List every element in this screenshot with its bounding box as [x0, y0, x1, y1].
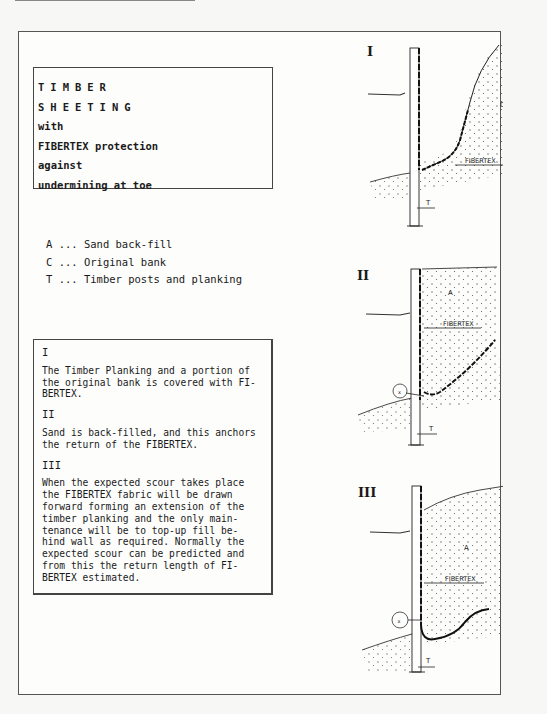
diagram-3: x FIBERTEX A T — [340, 460, 503, 690]
diagram-3-fabric-label: FIBERTEX — [445, 575, 476, 583]
diagram-3-fill-label: A — [464, 544, 469, 552]
diagram-2-timber-label: T — [428, 425, 434, 433]
title-line-2: SHEETING — [38, 98, 272, 118]
diagram-2-fabric-label: FIBERTEX — [443, 320, 474, 328]
diagram-3-timber-label: T — [425, 657, 431, 665]
diagram-2-detail-label: x — [398, 389, 401, 395]
step-3-numeral: III — [42, 460, 271, 472]
diagram-1: FIBERTEX C T — [360, 40, 503, 250]
diagram-2: x FIBERTEX A T — [340, 250, 503, 460]
diagram-1-fabric-label: FIBERTEX — [465, 157, 496, 165]
legend-item-t: T ... Timber posts and planking — [46, 271, 242, 289]
diagram-2-fill-label: A — [448, 289, 453, 297]
title-box: TIMBER SHEETING with FIBERTEX protection… — [33, 67, 273, 189]
legend-item-c: C ... Original bank — [46, 254, 242, 272]
title-line-1: TIMBER — [38, 78, 272, 98]
step-3-text: When the expected scour takes place the … — [42, 477, 271, 583]
step-1-numeral: I — [42, 347, 271, 359]
diagram-3-detail-label: x — [398, 618, 401, 624]
title-line-6: undermining at toe — [38, 176, 272, 196]
steps-box: I The Timber Planking and a portion of t… — [33, 339, 273, 595]
legend-item-a: A ... Sand back-fill — [46, 236, 242, 254]
step-2-numeral: II — [42, 409, 271, 421]
title-line-5: against — [38, 156, 272, 176]
step-2-text: Sand is back-filled, and this anchors th… — [42, 427, 271, 451]
title-line-4: FIBERTEX protection — [38, 137, 272, 157]
diagram-1-timber-label: T — [425, 199, 431, 207]
step-1-text: The Timber Planking and a portion of the… — [42, 365, 271, 400]
title-line-3: with — [38, 117, 272, 137]
page-edge-line — [15, 0, 195, 1]
legend: A ... Sand back-fill C ... Original bank… — [46, 236, 242, 289]
diagram-1-bank-label: C — [500, 101, 503, 109]
